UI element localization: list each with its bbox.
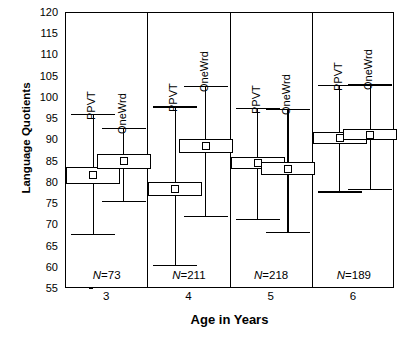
y-tick-60: 60 (46, 261, 58, 272)
panel-age-5: PPVTOneWrdN=218 (231, 13, 313, 287)
box-plot-figure: Language Quotients 120115110105100959085… (0, 0, 413, 344)
group-count-label: N=218 (231, 269, 312, 281)
whisker-cap-lower (266, 232, 310, 233)
whisker-cap-lower (318, 191, 362, 192)
x-tick-6: 6 (350, 290, 356, 302)
mean-marker (171, 185, 179, 193)
y-tick-85: 85 (46, 155, 58, 166)
y-tick-95: 95 (46, 113, 58, 124)
series-label-ppvt: PPVT (167, 84, 179, 113)
mean-marker (366, 131, 374, 139)
group-count-label: N=211 (148, 269, 229, 281)
x-axis-title: Age in Years (65, 312, 394, 327)
y-tick-75: 75 (46, 198, 58, 209)
whisker-cap-lower (348, 189, 392, 190)
panel-age-3: PPVTOneWrdN=73 (66, 13, 148, 287)
panel-age-6: PPVTOneWrdN=189 (313, 13, 395, 287)
y-tick-100: 100 (40, 91, 58, 102)
x-tick-4: 4 (185, 290, 191, 302)
y-tick-105: 105 (40, 70, 58, 81)
x-axis-tick-labels: 3456 (65, 290, 394, 310)
y-tick-120: 120 (40, 7, 58, 18)
y-tick-90: 90 (46, 134, 58, 145)
series-label-onewrd: OneWrd (280, 74, 292, 115)
series-label-ppvt: PPVT (85, 91, 97, 120)
mean-marker (89, 171, 97, 179)
mean-marker (284, 165, 292, 173)
y-tick-mark (89, 288, 93, 289)
series-label-onewrd: OneWrd (116, 93, 128, 134)
series-label-onewrd: OneWrd (198, 51, 210, 92)
whisker-cap-lower (71, 234, 115, 235)
whisker-cap-lower (153, 265, 197, 266)
whisker-cap-lower (184, 216, 228, 217)
series-label-ppvt: PPVT (250, 85, 262, 114)
series-label-onewrd: OneWrd (362, 50, 374, 91)
y-tick-115: 115 (40, 28, 58, 39)
group-count-label: N=189 (313, 269, 395, 281)
whisker-cap-lower (236, 219, 280, 220)
plot-area: PPVTOneWrdN=73PPVTOneWrdN=211PPVTOneWrdN… (65, 12, 394, 288)
mean-marker (120, 157, 128, 165)
x-tick-5: 5 (267, 290, 273, 302)
series-label-ppvt: PPVT (332, 62, 344, 91)
y-tick-55: 55 (46, 283, 58, 294)
mean-marker (202, 142, 210, 150)
group-count-label: N=73 (66, 269, 147, 281)
y-tick-70: 70 (46, 219, 58, 230)
x-tick-3: 3 (103, 290, 109, 302)
y-axis-tick-labels: 120115110105100959085807570656055 (28, 0, 58, 300)
y-tick-65: 65 (46, 240, 58, 251)
y-tick-80: 80 (46, 176, 58, 187)
whisker-cap-lower (102, 201, 146, 202)
y-tick-110: 110 (40, 49, 58, 60)
panel-age-4: PPVTOneWrdN=211 (148, 13, 230, 287)
